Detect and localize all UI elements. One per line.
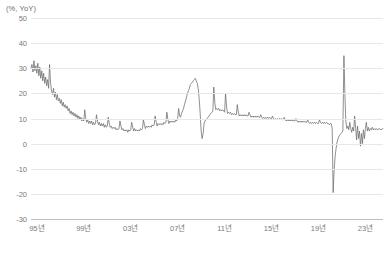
y-axis-tick-label: -30 [16,215,27,224]
y-axis-tick-label: 10 [19,114,27,123]
y-axis-tick-label: 20 [19,89,27,98]
grid-line [31,169,383,170]
y-axis-unit-label: (%, YoY) [6,4,36,13]
x-axis-tick-label: 99년 [76,222,91,233]
grid-line [31,119,383,120]
y-axis-tick-labels: 50403020100-10-20-30 [0,18,27,219]
x-axis-tick-label: 07년 [170,222,185,233]
y-axis-tick-label: 50 [19,14,27,23]
x-axis-tick-label: 15년 [264,222,279,233]
grid-line [31,93,383,94]
y-axis-tick-label: -20 [16,189,27,198]
x-axis-tick-label: 19년 [311,222,326,233]
grid-line [31,43,383,44]
y-axis-tick-label: 40 [19,39,27,48]
grid-line [31,144,383,145]
x-axis-tick-label: 95년 [29,222,44,233]
x-axis-tick-label: 11년 [217,222,232,233]
grid-line [31,68,383,69]
x-axis-tick-label: 03년 [123,222,138,233]
line-series-yoy-growth [31,56,383,193]
plot-area [31,18,383,219]
chart-container: (%, YoY) 50403020100-10-20-30 95년99년03년0… [0,0,391,263]
grid-line [31,18,383,19]
x-axis-tick-labels: 95년99년03년07년11년15년19년23년 [31,222,383,236]
y-axis-tick-label: -10 [16,164,27,173]
grid-line [31,194,383,195]
y-axis-tick-label: 30 [19,64,27,73]
x-axis-line [31,219,383,220]
x-axis-tick-label: 23년 [358,222,373,233]
y-axis-tick-label: 0 [23,139,27,148]
